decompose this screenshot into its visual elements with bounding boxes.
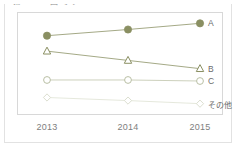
data-point-marker xyxy=(43,32,50,39)
data-point-marker xyxy=(125,77,132,84)
series-label-b: B xyxy=(208,64,214,74)
series-line xyxy=(47,23,200,35)
data-point-marker xyxy=(196,20,203,27)
series-c xyxy=(44,77,204,85)
series-b xyxy=(43,47,203,71)
series-line xyxy=(47,51,200,69)
series-line xyxy=(47,80,200,81)
series-label-a: A xyxy=(208,18,214,28)
series-label-c: C xyxy=(208,76,214,86)
x-axis-tick-2014: 2014 xyxy=(117,122,138,132)
series-layer xyxy=(43,20,203,108)
data-point-marker xyxy=(124,97,131,104)
series-a xyxy=(43,20,203,40)
data-point-marker xyxy=(124,26,131,33)
series-other xyxy=(43,94,203,107)
data-point-marker xyxy=(44,77,51,84)
x-axis-tick-2015: 2015 xyxy=(189,122,210,132)
data-point-marker xyxy=(43,47,50,54)
x-axis-tick-2013: 2013 xyxy=(36,122,57,132)
series-label-other: その他 xyxy=(208,99,233,110)
series-line xyxy=(47,97,200,103)
data-point-marker xyxy=(196,100,203,107)
data-point-marker xyxy=(43,94,50,101)
data-point-marker xyxy=(197,78,204,85)
